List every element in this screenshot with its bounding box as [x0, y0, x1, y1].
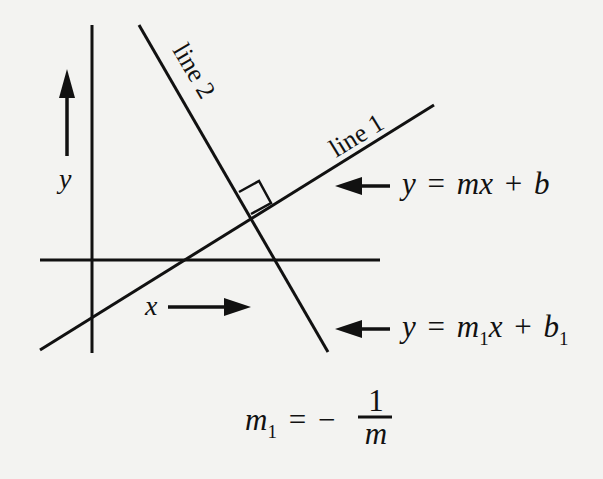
y-axis-label: y — [56, 163, 72, 194]
x-direction-arrow — [168, 298, 251, 316]
fraction-denominator: m — [365, 416, 387, 451]
line-2-equation: y = m1x + b1 — [399, 309, 568, 349]
x-axis-label: x — [144, 290, 158, 321]
line-1-pointer-arrow — [335, 177, 390, 195]
line-1-equation: y = mx + b — [399, 166, 549, 201]
line-2-pointer-arrow — [335, 320, 390, 338]
fraction-numerator: 1 — [368, 383, 384, 418]
line-2-label: line 2 — [167, 38, 222, 103]
perpendicular-lines-diagram: line 2 line 1 y x y = mx + b y = m1x + b… — [0, 0, 603, 479]
line-1 — [40, 105, 434, 350]
svg-text:m1 = −: m1 = − — [245, 402, 335, 445]
y-direction-arrow — [59, 69, 75, 156]
slope-relation-formula: m1 = − 1 m — [245, 383, 392, 451]
